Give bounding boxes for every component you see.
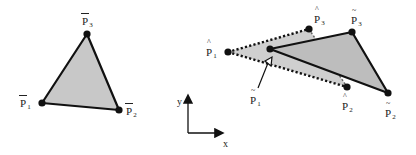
vertex-p3-tilde — [348, 28, 355, 35]
vertex-p2-bar — [115, 106, 122, 113]
label-main: P — [206, 47, 212, 58]
label-sub: 2 — [133, 111, 137, 119]
x-axis-label: x — [223, 138, 228, 149]
vertex-p3-bar — [83, 30, 90, 37]
vertex-p3-hat — [305, 25, 312, 32]
left-triangle — [38, 30, 122, 113]
pointer-arrow — [258, 57, 272, 88]
label-p3-tilde: P3 — [351, 15, 362, 28]
label-sub: 1 — [27, 103, 31, 111]
label-main: P — [314, 14, 320, 25]
label-sub: 2 — [349, 106, 353, 114]
label-sub: 3 — [321, 19, 325, 27]
label-main: P — [82, 16, 88, 27]
vertex-p2-tilde — [384, 89, 391, 96]
label-p1-tilde: P1 — [250, 95, 261, 108]
label-main: P — [351, 15, 357, 26]
vertex-p1-bar — [38, 99, 45, 106]
label-p1-bar: P1 — [20, 98, 31, 111]
label-sub: 3 — [89, 21, 93, 29]
label-p3-hat: P3 — [314, 14, 325, 27]
label-p1-hat: P1 — [206, 47, 217, 60]
axes — [188, 96, 222, 133]
label-main: P — [385, 108, 391, 119]
label-p2-bar: P2 — [126, 106, 137, 119]
label-sub: 2 — [392, 113, 396, 121]
label-main: P — [126, 106, 132, 117]
label-sub: 1 — [213, 52, 217, 60]
label-p2-hat: P2 — [342, 101, 353, 114]
label-sub: 3 — [358, 20, 362, 28]
label-p3-bar: P3 — [82, 16, 93, 29]
label-sub: 1 — [257, 100, 261, 108]
label-p2-tilde: P2 — [385, 108, 396, 121]
vertex-p1-tilde — [266, 45, 273, 52]
vertex-p1-hat — [224, 48, 231, 55]
vertex-p2-hat — [343, 83, 350, 90]
label-main: P — [20, 98, 26, 109]
y-axis-label: y — [177, 96, 182, 107]
label-main: P — [342, 101, 348, 112]
label-main: P — [250, 95, 256, 106]
